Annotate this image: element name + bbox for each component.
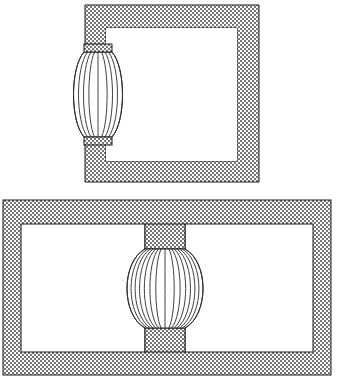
figure-top-chamber-void xyxy=(106,28,237,161)
figure-bottom-neck-lower xyxy=(145,328,185,352)
figure-bottom-sphere-element xyxy=(127,249,203,328)
figure-bottom-chamber-right xyxy=(185,224,313,352)
figure-bottom-neck-upper xyxy=(145,224,185,249)
figure-top-lens-element xyxy=(74,44,123,145)
figure-top-group xyxy=(74,5,260,182)
diagram-root xyxy=(0,0,338,383)
figure-top-lens-cap-upper xyxy=(84,44,112,52)
technical-figure-canvas xyxy=(0,0,338,383)
figure-top-lens-cap-lower xyxy=(84,137,112,145)
figure-bottom-group xyxy=(3,200,331,375)
figure-bottom-chamber-left xyxy=(21,224,145,352)
